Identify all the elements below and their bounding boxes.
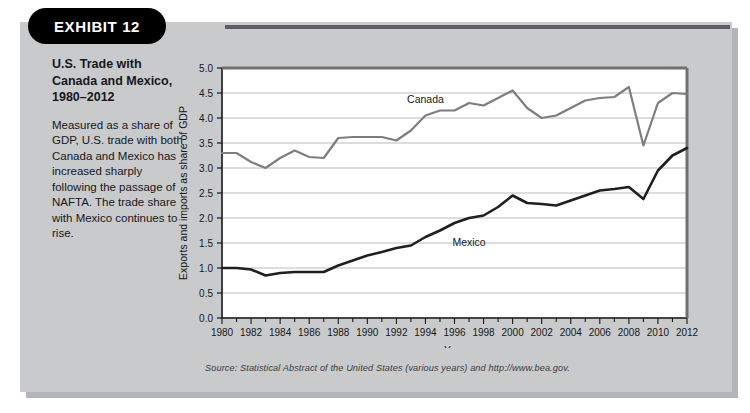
x-tick-label: 1990 [356, 327, 379, 338]
x-tick-label: 1996 [443, 327, 466, 338]
caption-column: U.S. Trade with Canada and Mexico, 1980–… [52, 56, 187, 242]
tag-rule [225, 25, 730, 29]
exhibit-tag: EXHIBIT 12 [28, 8, 166, 44]
chart-container: 0.00.51.01.52.02.53.03.54.04.55.01980198… [175, 48, 700, 348]
x-tick-label: 1982 [240, 327, 263, 338]
y-tick-label: 4.5 [199, 88, 213, 99]
y-tick-label: 3.5 [199, 138, 213, 149]
exhibit-figure: EXHIBIT 12 U.S. Trade with Canada and Me… [0, 0, 750, 413]
exhibit-caption: Measured as a share of GDP, U.S. trade w… [52, 118, 187, 242]
line-chart: 0.00.51.01.52.02.53.03.54.04.55.01980198… [175, 48, 700, 348]
x-tick-label: 2000 [502, 327, 525, 338]
x-tick-label: 1994 [414, 327, 437, 338]
x-tick-label: 1992 [385, 327, 408, 338]
x-tick-label: 2006 [589, 327, 612, 338]
series-label-canada: Canada [407, 93, 444, 105]
y-tick-label: 1.0 [199, 263, 213, 274]
y-tick-label: 2.0 [199, 213, 213, 224]
y-tick-label: 0.5 [199, 288, 213, 299]
x-tick-label: 2008 [618, 327, 641, 338]
x-tick-label: 1980 [211, 327, 234, 338]
x-tick-label: 2010 [647, 327, 670, 338]
y-tick-label: 3.0 [199, 163, 213, 174]
x-tick-label: 2012 [676, 327, 699, 338]
x-tick-label: 2004 [560, 327, 583, 338]
x-axis-title: Year [444, 344, 466, 348]
y-tick-label: 4.0 [199, 113, 213, 124]
x-tick-label: 2002 [531, 327, 554, 338]
exhibit-title: U.S. Trade with Canada and Mexico, 1980–… [52, 56, 187, 106]
source-note: Source: Statistical Abstract of the Unit… [205, 363, 570, 373]
series-label-mexico: Mexico [452, 236, 485, 248]
y-axis-title: Exports and imports as share of GDP [177, 106, 189, 280]
y-tick-label: 2.5 [199, 188, 213, 199]
x-tick-label: 1988 [327, 327, 350, 338]
y-tick-label: 5.0 [199, 63, 213, 74]
y-tick-label: 0.0 [199, 313, 213, 324]
x-tick-label: 1984 [269, 327, 292, 338]
y-tick-label: 1.5 [199, 238, 213, 249]
x-tick-label: 1998 [472, 327, 495, 338]
x-tick-label: 1986 [298, 327, 321, 338]
exhibit-tag-label: EXHIBIT 12 [54, 18, 140, 35]
